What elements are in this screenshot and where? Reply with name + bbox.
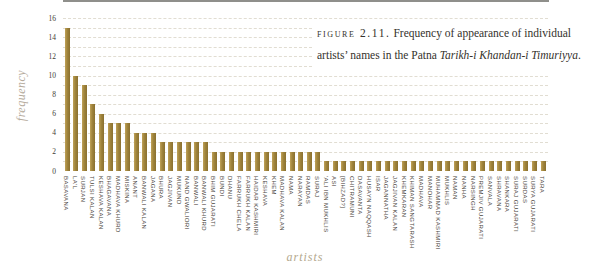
bar-nanha [463, 161, 468, 171]
x-axis-label: HAIDAR KASHMIRI [253, 176, 259, 235]
y-tick-label: 8 [34, 91, 56, 98]
bar-ramdas [307, 152, 312, 171]
gridline [63, 123, 548, 124]
x-axis-label: MISKINA [124, 176, 130, 203]
x-axis-label: TARA [539, 176, 545, 193]
x-axis-label: MADHAVA [418, 176, 424, 208]
x-axis-label: SURDAS [522, 176, 528, 203]
bar-shankara [506, 161, 511, 171]
x-axis-label: SURYA GUJARATI [530, 176, 536, 232]
y-axis-title: frequency [14, 41, 29, 151]
bar-narayan [298, 152, 303, 171]
x-axis-label: SHRAVANA [496, 176, 502, 211]
bar-surya-gujarati [532, 161, 537, 171]
bar-khemkaran [402, 161, 407, 171]
x-axis-label: MANOHAR [427, 176, 433, 209]
bar-basavana [65, 28, 70, 171]
gridline [63, 76, 548, 77]
x-axis-label: ASI [331, 176, 337, 187]
x-axis-label: SANVALA [487, 176, 493, 206]
bar-sanvala [489, 161, 494, 171]
x-axis-label: BHIM GUJARATI [210, 176, 216, 227]
figure-caption: figure 2.11. Frequency of appearance of … [313, 20, 585, 68]
bar-isar [376, 161, 381, 171]
bar-tulsi-kalan [90, 104, 95, 171]
x-axis-label: BANWALI KHURD [201, 176, 207, 231]
bar-madhava-khurd [116, 123, 121, 171]
bar-surjan [82, 85, 87, 171]
figure-number-label: figure 2.11. [317, 27, 391, 39]
bar-tara [541, 161, 546, 171]
x-axis-label: BANWALI KALAN [141, 176, 147, 229]
bar-keshava-kalan [99, 114, 104, 171]
x-axis-label: JAGJIVAN KALAN [392, 176, 398, 231]
bar-mukhlis [445, 161, 450, 171]
bar-khem [272, 152, 277, 171]
x-axis-label: KHEM [271, 176, 277, 195]
bar-madhava-kalan [281, 152, 286, 171]
caption-book-title: Tarikh-i Khandan-i Timuriyya [440, 49, 578, 61]
bar-chitramuni [350, 161, 355, 171]
x-axis-label: ANANT [132, 176, 138, 198]
x-axis-label: NANHA [461, 176, 467, 199]
figure-2-11-bar-chart: 0246810121416 BASAVANALA'LSURJANTULSI KA… [0, 0, 608, 280]
x-axis-label: BHURA [158, 176, 164, 199]
x-axis-label: ISAR [375, 176, 381, 192]
x-axis-label: DASAVANTA [357, 176, 363, 215]
bar-jagjivan-kalan [393, 161, 398, 171]
x-axis-label: PREMJIV GUJARATI [478, 176, 484, 239]
y-tick-label: 6 [34, 110, 56, 117]
bar-banwali-khurd [203, 142, 208, 171]
bar-anant [134, 133, 139, 171]
bar-jagjivan [168, 142, 173, 171]
bar-miskina [125, 123, 130, 171]
bar-nama [290, 152, 295, 171]
bar-bundi [220, 152, 225, 171]
x-axis-label: HUSAYN NAQQASH [366, 176, 372, 238]
x-axis-label: FARRUKH CHELA [236, 176, 242, 232]
bar-jagannatha [385, 161, 390, 171]
y-tick-label: 10 [34, 72, 56, 79]
bar-nand-gwaliori [186, 142, 191, 171]
bar-banwali [194, 142, 199, 171]
bar-mukund [177, 142, 182, 171]
y-tick-label: 14 [34, 34, 56, 41]
x-axis-label: JAGJIVAN [167, 176, 173, 207]
x-axis-label: TULSI KALAN [89, 176, 95, 219]
x-axis-label: 'ALI IBN MUKHLIS [323, 176, 329, 233]
bar-shravana [497, 161, 502, 171]
bar-jagana [151, 133, 156, 171]
x-axis-label: NARSINGH [470, 176, 476, 211]
bar-banwali-kalan [142, 133, 147, 171]
x-axis-baseline [63, 0, 549, 2]
x-axis-label: NAMA [288, 176, 294, 195]
bar--bihzad- [341, 161, 346, 171]
x-axis-label: MADHAVA KALAN [279, 176, 285, 231]
x-axis-label: KHIMAN SANGTARASH [409, 176, 415, 249]
x-axis-label: JAGANA [150, 176, 156, 202]
bar-keshava [264, 152, 269, 171]
x-axis-label: SHANKARA [504, 176, 510, 212]
bar-premjiv-gujarati [480, 161, 485, 171]
x-axis-label: RAMDAS [305, 176, 311, 204]
x-axis-label: KESHAVA KALAN [98, 176, 104, 230]
gridline [63, 85, 548, 86]
bar-asi [333, 161, 338, 171]
bar-farrukh-kalan [246, 152, 251, 171]
x-axis-label: SURAJ GUJARATI [513, 176, 519, 232]
x-axis-label: MUKUND [176, 176, 182, 205]
x-axis-label: NAMAN [452, 176, 458, 200]
caption-period: . [578, 49, 581, 61]
gridline [63, 104, 548, 105]
x-axis-label: NAND GWALIORI [184, 176, 190, 230]
x-axis-label: CHITRAMUNI [349, 176, 355, 218]
x-axis-label: BUNDI [219, 176, 225, 197]
x-axis-label: JAGANNATHA [383, 176, 389, 220]
x-axis-label: SURJAN [80, 176, 86, 202]
y-tick-label: 0 [34, 168, 56, 175]
bar-madhava [419, 161, 424, 171]
bar-bhura [160, 142, 165, 171]
x-axis-label: MUHAMMAD KASHMIRI [435, 176, 441, 249]
x-axis-label: KHEMKARAN [401, 176, 407, 218]
bar-dasavanta [359, 161, 364, 171]
